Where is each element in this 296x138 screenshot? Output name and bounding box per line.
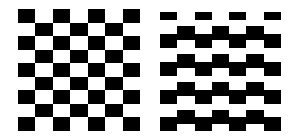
checker-bar: [177, 26, 195, 40]
checker-bar: [246, 110, 264, 124]
checker-bar: [177, 54, 195, 68]
checker-bar: [246, 26, 264, 40]
checker-square: [123, 9, 140, 23]
checker-bar: [195, 12, 212, 20]
checker-square: [18, 117, 35, 131]
checker-square: [123, 117, 140, 131]
checker-bar: [195, 34, 212, 48]
checker-bar: [229, 90, 246, 104]
checker-bar: [264, 90, 281, 104]
checker-bar: [160, 12, 177, 20]
checker-square: [70, 23, 88, 36]
checker-bar: [264, 62, 281, 76]
regular-checkerboard: [18, 9, 140, 131]
checker-square: [35, 104, 53, 117]
checker-square: [105, 104, 123, 117]
checker-square: [123, 36, 140, 50]
checker-bar: [195, 90, 212, 104]
checker-bar: [246, 54, 264, 68]
checker-square: [18, 63, 35, 77]
checker-bar: [264, 117, 281, 131]
checker-bar: [160, 34, 177, 48]
checker-square: [18, 90, 35, 104]
checker-square: [88, 9, 105, 23]
checker-square: [123, 63, 140, 77]
checker-bar: [212, 54, 229, 68]
checker-bar: [229, 117, 246, 131]
checker-bar: [160, 62, 177, 76]
checker-square: [53, 90, 70, 104]
checker-square: [88, 117, 105, 131]
checker-square: [35, 50, 53, 63]
checker-bar: [160, 90, 177, 104]
checker-square: [70, 77, 88, 90]
checker-bar: [212, 26, 229, 40]
checker-square: [53, 36, 70, 50]
checker-square: [18, 36, 35, 50]
checker-square: [105, 23, 123, 36]
checker-bar: [229, 12, 246, 20]
checker-bar: [160, 117, 177, 131]
checker-square: [105, 50, 123, 63]
checker-square: [18, 9, 35, 23]
checker-bar: [177, 82, 195, 96]
illusion-figure: [0, 0, 296, 138]
checker-square: [88, 63, 105, 77]
staggered-checkerboard: [160, 12, 281, 131]
checker-square: [53, 117, 70, 131]
checker-bar: [246, 82, 264, 96]
checker-bar: [195, 117, 212, 131]
checker-square: [53, 63, 70, 77]
checker-square: [123, 90, 140, 104]
checker-bar: [229, 62, 246, 76]
checker-square: [70, 50, 88, 63]
checker-bar: [212, 82, 229, 96]
checker-bar: [212, 110, 229, 124]
checker-bar: [264, 12, 281, 20]
checker-square: [88, 36, 105, 50]
checker-bar: [229, 34, 246, 48]
checker-square: [35, 23, 53, 36]
checker-square: [105, 77, 123, 90]
checker-bar: [177, 110, 195, 124]
checker-square: [70, 104, 88, 117]
checker-square: [88, 90, 105, 104]
checker-square: [53, 9, 70, 23]
checker-bar: [264, 34, 281, 48]
checker-square: [35, 77, 53, 90]
checker-bar: [195, 62, 212, 76]
